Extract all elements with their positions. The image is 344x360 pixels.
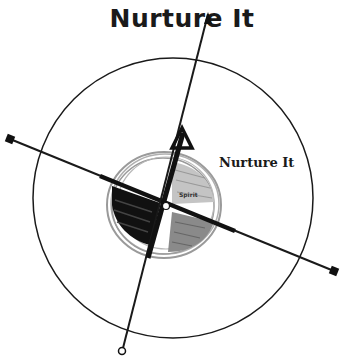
center-point xyxy=(163,203,170,210)
side-label: Nurture It xyxy=(219,155,294,170)
diagram-canvas xyxy=(0,0,344,360)
spirit-label: Spirit xyxy=(179,191,198,198)
